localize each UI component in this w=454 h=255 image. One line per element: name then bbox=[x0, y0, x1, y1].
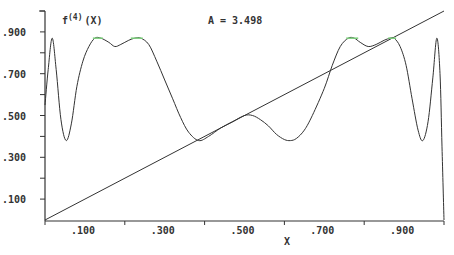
x-tick-label: .500 bbox=[231, 225, 255, 236]
y-tick-label: .300 bbox=[2, 152, 26, 163]
x-tick-label: .300 bbox=[151, 225, 175, 236]
chart-title: f(4)(X) bbox=[62, 13, 103, 26]
function-curve bbox=[45, 37, 444, 220]
y-tick-label: .700 bbox=[2, 69, 26, 80]
chart: .100.300.500.700.900.100.300.500.700.900… bbox=[0, 0, 454, 255]
y-tick-label: .900 bbox=[2, 27, 26, 38]
y-tick-label: .100 bbox=[2, 194, 26, 205]
x-tick-label: .700 bbox=[310, 225, 334, 236]
x-tick-label: .900 bbox=[390, 225, 414, 236]
tick-labels: .100.300.500.700.900.100.300.500.700.900 bbox=[2, 27, 414, 236]
x-tick-label: .100 bbox=[71, 225, 95, 236]
annotation-area: A = 3.498 bbox=[208, 15, 262, 26]
y-tick-label: .500 bbox=[2, 111, 26, 122]
x-axis-label: X bbox=[284, 236, 290, 247]
